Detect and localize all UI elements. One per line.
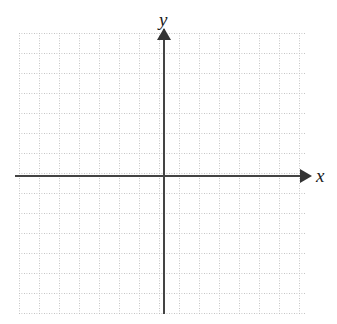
y-axis-label: y — [159, 10, 167, 29]
x-axis-label: x — [316, 166, 324, 185]
coordinate-plane-figure: x y — [0, 0, 337, 324]
x-axis-line — [15, 175, 308, 177]
x-axis-arrowhead-icon — [300, 169, 312, 183]
y-axis-line — [163, 29, 165, 314]
